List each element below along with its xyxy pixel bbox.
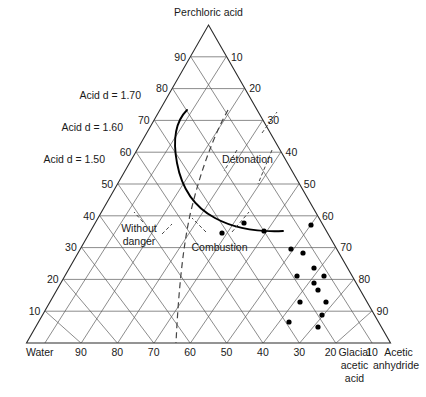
bottom-axis-tick-labels: 90 80 70 60 50 40 30 20 10 (75, 346, 378, 358)
data-point (297, 299, 302, 304)
data-point (323, 299, 328, 304)
left-tick-80: 80 (156, 82, 168, 94)
data-point (315, 287, 320, 292)
region-label-without-danger-line2: danger (123, 235, 156, 247)
data-point (286, 319, 291, 324)
left-tick-10: 10 (29, 305, 41, 317)
data-point (294, 273, 299, 278)
density-label-160: Acid d = 1.60 (61, 121, 123, 133)
data-point (219, 230, 224, 235)
right-tick-50: 50 (304, 178, 316, 190)
data-point (321, 273, 326, 278)
bottom-tick-80: 80 (111, 346, 123, 358)
right-tick-20: 20 (249, 82, 261, 94)
bottom-mid-label-line2: acetic (341, 359, 368, 371)
dashed-phase-boundary (176, 110, 228, 343)
data-point (311, 265, 316, 270)
left-tick-60: 60 (120, 146, 132, 158)
bottom-tick-30: 30 (293, 346, 305, 358)
data-point (308, 222, 313, 227)
region-label-without-danger-line1: Without (121, 222, 157, 234)
apex-label: Perchloric acid (174, 6, 243, 18)
bottom-tick-50: 50 (221, 346, 233, 358)
data-point (319, 312, 324, 317)
ternary-diagram-figure: Perchloric acid 90 80 70 60 50 40 30 20 … (0, 0, 426, 397)
right-tick-40: 40 (286, 146, 298, 158)
left-tick-70: 70 (138, 114, 150, 126)
right-corner-label-line1: Acetic (384, 346, 413, 358)
right-tick-10: 10 (231, 51, 243, 63)
bottom-mid-label-line1: Glacial (338, 346, 370, 358)
right-tick-80: 80 (358, 273, 370, 285)
left-tick-20: 20 (47, 273, 59, 285)
bottom-tick-70: 70 (148, 346, 160, 358)
data-point (241, 220, 246, 225)
density-label-170: Acid d = 1.70 (79, 89, 141, 101)
bottom-tick-20: 20 (325, 346, 337, 358)
bottom-tick-40: 40 (257, 346, 269, 358)
right-tick-60: 60 (322, 210, 334, 222)
region-label-detonation: Detonation (222, 153, 273, 165)
density-label-150: Acid d = 1.50 (43, 153, 105, 165)
bottom-tick-60: 60 (184, 346, 196, 358)
data-point (315, 324, 320, 329)
data-point (300, 250, 305, 255)
left-tick-40: 40 (83, 210, 95, 222)
left-tick-30: 30 (65, 241, 77, 253)
right-tick-70: 70 (340, 241, 352, 253)
data-point (261, 228, 266, 233)
right-tick-90: 90 (377, 305, 389, 317)
region-label-combustion: Combustion (191, 241, 247, 253)
data-points (219, 220, 328, 329)
solid-phase-boundary (175, 110, 283, 231)
bottom-mid-label-line3: acid (345, 372, 364, 384)
left-corner-label: Water (26, 346, 54, 358)
bottom-tick-90: 90 (75, 346, 87, 358)
left-tick-50: 50 (102, 178, 114, 190)
data-point (288, 246, 293, 251)
right-corner-label-line2: anhydride (373, 359, 419, 371)
data-point (311, 280, 316, 285)
ternary-plot-svg: Perchloric acid 90 80 70 60 50 40 30 20 … (0, 0, 426, 397)
left-tick-90: 90 (174, 51, 186, 63)
right-tick-30: 30 (267, 114, 279, 126)
